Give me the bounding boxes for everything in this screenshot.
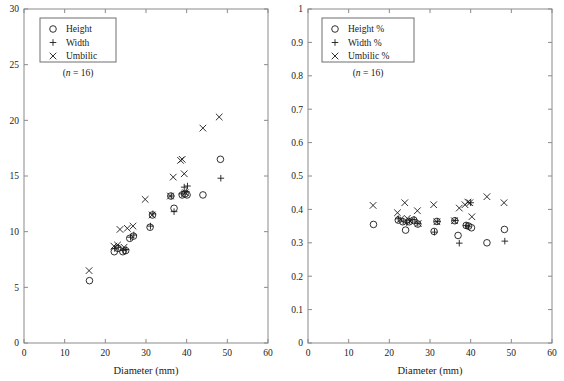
y-tick-label: 1: [298, 4, 303, 14]
y-tick-label: 0.2: [291, 272, 303, 282]
data-point-circle: [86, 277, 93, 284]
scatter-plot-right: 010203040506000.10.20.30.40.50.60.70.80.…: [282, 0, 564, 381]
legend-label: Height %: [348, 24, 384, 34]
x-tick-label: 40: [182, 348, 192, 358]
y-tick-label: 20: [10, 116, 20, 126]
series-umbilic: [86, 114, 223, 274]
x-axis-title: Diameter (mm): [113, 365, 179, 377]
legend-label: Width: [66, 38, 90, 48]
x-tick-label: 60: [547, 348, 557, 358]
data-point-circle: [402, 227, 409, 234]
legend-label: Height: [66, 24, 92, 34]
x-tick-label: 10: [344, 348, 354, 358]
series-width: [111, 175, 224, 254]
y-tick-label: 5: [14, 283, 19, 293]
figure-root: 0102030405060051015202530Diameter (mm)He…: [0, 0, 564, 381]
y-tick-label: 30: [10, 4, 20, 14]
sample-size-annotation: (n = 16): [63, 68, 94, 79]
legend-label: Umbilic %: [348, 51, 390, 61]
chart-panel-right: 010203040506000.10.20.30.40.50.60.70.80.…: [282, 0, 564, 381]
y-tick-label: 0: [14, 338, 19, 348]
data-point-circle: [484, 240, 491, 247]
y-tick-label: 0.1: [291, 305, 303, 315]
data-point-circle: [501, 226, 508, 233]
x-tick-label: 20: [101, 348, 111, 358]
y-tick-label: 0.4: [291, 205, 303, 215]
x-tick-label: 60: [263, 348, 273, 358]
data-point-circle: [370, 221, 377, 228]
legend-label: Umbilic: [66, 51, 97, 61]
x-tick-label: 10: [60, 348, 70, 358]
y-tick-label: 0.8: [291, 71, 303, 81]
x-axis-title: Diameter (mm): [397, 365, 463, 377]
y-tick-label: 0.9: [291, 38, 303, 48]
x-tick-label: 0: [306, 348, 311, 358]
x-tick-label: 50: [507, 348, 517, 358]
y-tick-label: 0.3: [291, 238, 303, 248]
y-tick-label: 0.6: [291, 138, 303, 148]
data-point-circle: [217, 156, 224, 163]
x-tick-label: 40: [466, 348, 476, 358]
legend: Height %Width %Umbilic %: [322, 18, 414, 62]
y-tick-label: 0: [298, 338, 303, 348]
x-tick-label: 30: [141, 348, 151, 358]
legend: HeightWidthUmbilic: [40, 18, 116, 62]
x-tick-label: 50: [223, 348, 233, 358]
y-tick-label: 0.5: [291, 171, 303, 181]
sample-size-annotation: (n = 16): [353, 68, 384, 79]
x-tick-label: 20: [385, 348, 395, 358]
data-point-circle: [200, 192, 207, 199]
y-tick-label: 10: [10, 227, 20, 237]
legend-label: Width %: [348, 38, 382, 48]
y-tick-label: 15: [10, 171, 20, 181]
chart-panel-left: 0102030405060051015202530Diameter (mm)He…: [0, 0, 282, 381]
x-tick-label: 30: [425, 348, 435, 358]
scatter-plot-left: 0102030405060051015202530Diameter (mm)He…: [0, 0, 282, 381]
y-tick-label: 25: [10, 60, 20, 70]
series-height: [86, 156, 224, 284]
data-point-circle: [455, 232, 462, 239]
x-tick-label: 0: [22, 348, 27, 358]
y-tick-label: 0.7: [291, 105, 303, 115]
